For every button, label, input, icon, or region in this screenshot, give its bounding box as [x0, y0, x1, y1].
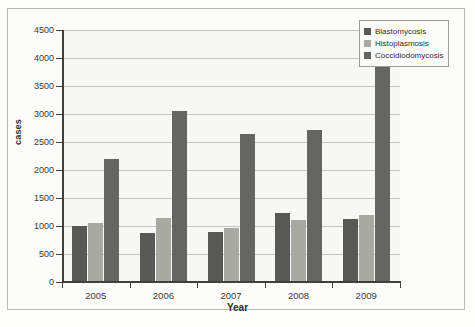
gridline — [62, 86, 400, 87]
x-axis-tick — [332, 283, 333, 288]
y-axis-tick — [56, 198, 63, 199]
y-axis-tick-label: 1000 — [14, 221, 54, 231]
y-axis-line — [62, 30, 64, 283]
legend-swatch-icon — [364, 40, 371, 47]
x-axis-tick — [130, 283, 131, 288]
bar — [156, 218, 171, 282]
x-axis-tick-label: 2009 — [356, 290, 377, 301]
y-axis-tick — [56, 58, 63, 59]
bar — [291, 220, 306, 282]
y-axis-tick-label: 0 — [14, 277, 54, 287]
gridline — [62, 58, 400, 59]
x-axis-line — [62, 281, 401, 283]
y-axis-tick — [56, 86, 63, 87]
legend-swatch-icon — [364, 52, 371, 59]
x-axis-tick-label: 2008 — [288, 290, 309, 301]
legend-item: Blastomycosis — [364, 26, 443, 37]
bar — [375, 47, 390, 282]
legend-item: Coccidiodomycosis — [364, 50, 443, 61]
x-axis-tick — [62, 283, 63, 288]
bar — [343, 219, 358, 282]
bar — [307, 130, 322, 282]
bar — [172, 111, 187, 282]
y-axis-tick — [56, 254, 63, 255]
gridline — [62, 142, 400, 143]
y-axis-tick-label: 4000 — [14, 53, 54, 63]
legend-label: Coccidiodomycosis — [375, 50, 443, 61]
y-axis-tick — [56, 142, 63, 143]
y-axis-tick-label: 4500 — [14, 25, 54, 35]
chart-legend: BlastomycosisHistoplasmosisCoccidiodomyc… — [359, 20, 449, 67]
x-axis-tick — [400, 283, 401, 288]
x-axis-tick-label: 2006 — [153, 290, 174, 301]
bar — [240, 134, 255, 282]
y-axis-tick-label: 1500 — [14, 193, 54, 203]
gridline — [62, 114, 400, 115]
bar — [72, 226, 87, 282]
y-axis-tick-label: 3000 — [14, 109, 54, 119]
x-axis-tick-label: 2007 — [220, 290, 241, 301]
legend-label: Histoplasmosis — [375, 38, 429, 49]
y-axis-tick-label: 500 — [14, 249, 54, 259]
bar — [104, 159, 119, 282]
y-axis-tick — [56, 30, 63, 31]
legend-swatch-icon — [364, 28, 371, 35]
plot-area — [62, 30, 400, 282]
x-axis-title: Year — [0, 302, 475, 313]
y-axis-tick-label: 3500 — [14, 81, 54, 91]
legend-item: Histoplasmosis — [364, 38, 443, 49]
y-axis-tick-label: 2500 — [14, 137, 54, 147]
y-axis-tick — [56, 114, 63, 115]
x-axis-tick — [197, 283, 198, 288]
x-axis-tick-label: 2005 — [85, 290, 106, 301]
bar — [140, 233, 155, 282]
bar — [359, 215, 374, 282]
legend-label: Blastomycosis — [375, 26, 426, 37]
plot-inner — [62, 30, 400, 282]
bar — [224, 228, 239, 282]
gridline — [62, 30, 400, 31]
bar — [275, 213, 290, 282]
bar — [208, 232, 223, 282]
chart-figure: cases 0500100015002000250030003500400045… — [0, 0, 475, 327]
bar — [88, 223, 103, 282]
y-axis-tick-label: 2000 — [14, 165, 54, 175]
y-axis-tick — [56, 226, 63, 227]
y-axis-tick — [56, 170, 63, 171]
x-axis-tick — [265, 283, 266, 288]
